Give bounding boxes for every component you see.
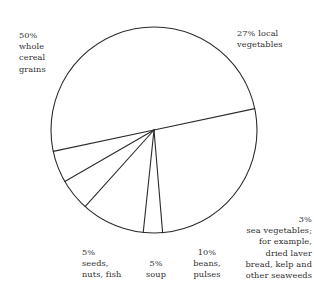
slice-label-whole-cereal-grains: 50% whole cereal grains <box>19 30 81 75</box>
pie-slices <box>51 27 257 233</box>
slice-label-beans-pulses: 10% beans, pulses <box>183 247 231 281</box>
slice-label-sea-vegetables: 3% sea vegetables; for example, dried la… <box>220 214 312 281</box>
slice-label-local-vegetables: 27% local vegetables <box>237 28 311 50</box>
slice-label-seeds-nuts-fish: 5% seeds, nuts, fish <box>82 247 144 281</box>
pie-chart-figure: 50% whole cereal grains 27% local vegeta… <box>0 0 314 307</box>
